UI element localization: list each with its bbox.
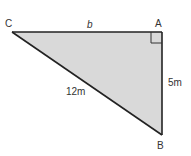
triangle-diagram: C A B b 5m 12m	[0, 0, 191, 156]
vertex-label-b: B	[157, 140, 164, 151]
vertex-label-c: C	[5, 18, 12, 29]
side-label-12m: 12m	[66, 86, 85, 97]
side-label-5m: 5m	[168, 77, 182, 88]
side-label-b: b	[87, 19, 93, 30]
vertex-label-a: A	[155, 18, 162, 29]
